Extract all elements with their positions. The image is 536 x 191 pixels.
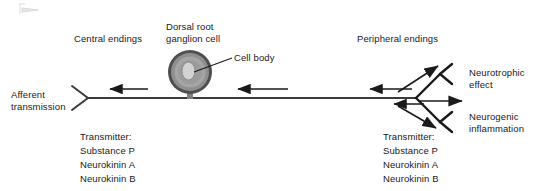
label-dorsal-root-ganglion-cell: Dorsal root ganglion cell [166, 21, 220, 44]
neurotrophic-arrow [398, 66, 438, 92]
transmitter-left-item-2: Neurokinin B [80, 173, 136, 185]
transmitter-right-item-2: Neurokinin B [383, 173, 439, 185]
transmitter-left-heading: Transmitter: [80, 131, 132, 143]
label-neurotrophic-effect: Neurotrophic effect [469, 67, 525, 90]
label-cell-body: Cell body [234, 52, 275, 64]
transmitter-right-heading: Transmitter: [383, 131, 435, 143]
label-central-endings: Central endings [74, 33, 142, 45]
central-ending-terminal [72, 86, 88, 110]
peripheral-branches [416, 64, 452, 132]
neurogenic-arrow [398, 106, 436, 128]
label-peripheral-endings: Peripheral endings [357, 33, 438, 45]
label-neurogenic-inflammation: Neurogenic inflammation [469, 111, 524, 134]
transmitter-left-item-0: Substance P [80, 145, 135, 157]
ganglion-cell-body [168, 50, 212, 94]
dorsal-root-ganglion-diagram: Central endings Dorsal root ganglion cel… [0, 0, 536, 191]
label-afferent-transmission: Afferent transmission [11, 89, 66, 112]
transmitter-right-item-1: Neurokinin A [383, 159, 438, 171]
transmitter-left-item-1: Neurokinin A [80, 159, 135, 171]
transmitter-right-item-0: Substance P [383, 145, 438, 157]
